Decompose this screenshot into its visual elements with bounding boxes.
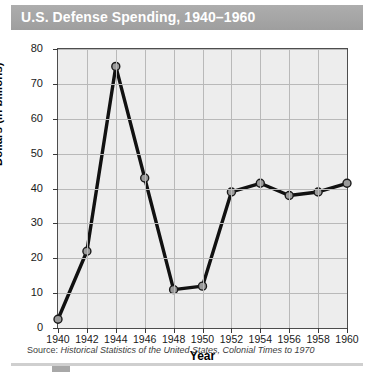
y-axis-tick-label: 0 xyxy=(11,321,43,333)
y-axis-tick xyxy=(53,84,58,85)
gridline-vertical xyxy=(174,49,175,328)
gridline-vertical xyxy=(318,49,319,328)
y-axis-tick xyxy=(53,258,58,259)
y-axis-tick-label: 70 xyxy=(11,77,43,89)
y-axis-tick xyxy=(53,189,58,190)
y-axis-tick xyxy=(53,293,58,294)
y-axis-title: Dollars (in billions) xyxy=(0,62,4,166)
gridline-vertical xyxy=(87,49,88,328)
y-axis-tick xyxy=(53,223,58,224)
gridline-vertical xyxy=(145,49,146,328)
data-point-marker xyxy=(343,179,351,187)
plot-inner xyxy=(58,49,347,328)
source-note: Source: Historical Statistics of the Uni… xyxy=(27,345,315,355)
y-axis-tick-label: 50 xyxy=(11,147,43,159)
y-axis-tick xyxy=(53,49,58,50)
gridline-vertical xyxy=(289,49,290,328)
y-axis-tick-label: 30 xyxy=(11,216,43,228)
source-citation: Historical Statistics of the United Stat… xyxy=(61,345,315,355)
chart-container: Dollars (in billions) 01020304050607080 … xyxy=(0,30,382,335)
gridline-vertical xyxy=(231,49,232,328)
gridline-vertical xyxy=(260,49,261,328)
y-axis-tick-label: 80 xyxy=(11,42,43,54)
footer-tab-marker xyxy=(52,366,70,372)
x-axis-tick-label: 1960 xyxy=(327,333,367,345)
y-axis-tick-label: 20 xyxy=(11,251,43,263)
y-axis-tick-label: 40 xyxy=(11,182,43,194)
plot-area xyxy=(57,48,348,329)
y-axis-tick-label: 10 xyxy=(11,286,43,298)
y-axis-tick xyxy=(53,154,58,155)
data-point-marker xyxy=(54,315,62,323)
y-axis-tick xyxy=(53,119,58,120)
y-axis-tick-label: 60 xyxy=(11,112,43,124)
gridline-vertical xyxy=(203,49,204,328)
chart-title-banner: U.S. Defense Spending, 1940–1960 xyxy=(11,5,363,30)
gridline-vertical xyxy=(116,49,117,328)
source-label: Source: xyxy=(27,345,58,355)
page-title: U.S. Defense Spending, 1940–1960 xyxy=(21,9,255,25)
